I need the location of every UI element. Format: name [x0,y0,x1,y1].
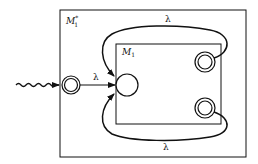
outer-machine-label: M*1 [65,14,78,28]
kleene-star-diagram: M*1 M1 λ λ λ [0,0,258,164]
state-m1-accept-bottom[interactable] [195,98,215,118]
inner-machine-label: M1 [121,47,135,58]
state-m1-start[interactable] [116,74,138,96]
transition-label-bottom: λ [163,142,169,152]
transition-label-start: λ [93,72,99,82]
state-new-start[interactable] [62,76,80,94]
start-input-arrow [16,84,59,87]
state-m1-accept-top[interactable] [195,52,215,72]
transition-label-top: λ [165,14,171,24]
